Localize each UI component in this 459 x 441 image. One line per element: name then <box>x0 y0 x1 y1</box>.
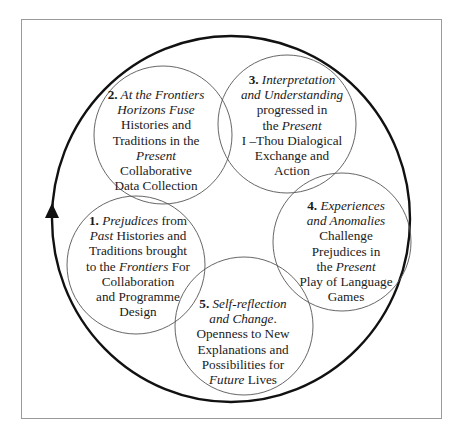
stage-1-line: from <box>158 213 187 228</box>
stage-number: 4. <box>307 198 317 213</box>
stage-3-title-cont: and Understanding <box>241 87 343 102</box>
stage-4-line: Present <box>336 259 376 274</box>
stage-5-line: Openness to New <box>178 326 308 341</box>
arrow-up-icon <box>45 203 59 218</box>
stage-2-line: Histories and <box>91 117 221 132</box>
stage-4-line: the <box>316 259 335 274</box>
stage-number: 2. <box>108 87 118 102</box>
stage-number: 1. <box>89 213 99 228</box>
stage-5-line: Lives <box>244 372 277 387</box>
stage-2-title: At the Frontiers <box>118 87 205 102</box>
stage-1-line: Histories and <box>113 228 186 243</box>
stage-1-line: For <box>168 259 190 274</box>
stage-5-line: . <box>273 311 276 326</box>
stage-4-title-cont: and Anomalies <box>307 213 386 228</box>
stage-3-line: I –Thou Dialogical <box>227 133 357 148</box>
stage-3-label: 3. Interpretation and Understanding prog… <box>227 72 357 178</box>
stage-1-line: Frontiers <box>119 259 168 274</box>
stage-2-line: Traditions in the <box>91 133 221 148</box>
stage-4-title: Experiences <box>317 198 385 213</box>
stage-3-line: Exchange and <box>227 148 357 163</box>
stage-4-label: 4. Experiences and Anomalies Challenge P… <box>281 198 411 304</box>
stage-3-title: Interpretation <box>259 72 336 87</box>
stage-5-line: Explanations and <box>178 342 308 357</box>
stage-3-line: the <box>262 118 281 133</box>
stage-5-title: Self-reflection <box>209 296 287 311</box>
stage-number: 3. <box>249 72 259 87</box>
stage-4-line: Prejudices in <box>281 244 411 259</box>
stage-number: 5. <box>199 296 209 311</box>
stage-1-line: Traditions brought <box>73 243 203 258</box>
stage-1-line: to the <box>86 259 119 274</box>
stage-1-line: Past <box>90 228 113 243</box>
stage-5-line: Future <box>209 372 244 387</box>
stage-5-title-cont: and Change <box>209 311 273 326</box>
stage-4-line: Play of Language <box>281 274 411 289</box>
stage-2-label: 2. At the Frontiers Horizons Fuse Histor… <box>91 87 221 193</box>
stage-2-line: Present <box>136 148 176 163</box>
stage-1-line: Collaboration <box>73 274 203 289</box>
stage-1-title: Prejudices <box>102 213 158 228</box>
stage-2-title-cont: Horizons Fuse <box>117 102 194 117</box>
stage-3-line: progressed in <box>227 102 357 117</box>
stage-2-line: Data Collection <box>91 178 221 193</box>
stage-3-line: Action <box>227 163 357 178</box>
stage-4-line: Challenge <box>281 228 411 243</box>
stage-5-line: Possibilities for <box>178 357 308 372</box>
stage-3-line: Present <box>282 118 322 133</box>
stage-5-label: 5. Self-reflection and Change. Openness … <box>178 296 308 387</box>
stage-2-line: Collaborative <box>91 163 221 178</box>
